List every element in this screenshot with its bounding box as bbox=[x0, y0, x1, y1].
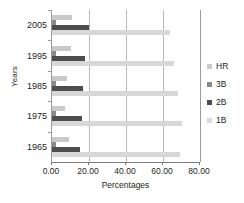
legend-label: 2B bbox=[216, 98, 226, 107]
bar bbox=[52, 152, 180, 157]
x-tick-mark bbox=[51, 162, 52, 165]
x-tick-mark bbox=[162, 162, 163, 165]
plot-area bbox=[51, 10, 201, 162]
y-axis-tick-labels: 20051995198519751965 bbox=[0, 10, 47, 162]
y-tick-label: 1975 bbox=[3, 111, 47, 121]
bar-group bbox=[52, 40, 200, 70]
y-tick-label: 2005 bbox=[3, 20, 47, 30]
x-tick-mark bbox=[88, 162, 89, 165]
legend: HR3B2B1B bbox=[207, 57, 244, 129]
y-tick-label: 1995 bbox=[3, 51, 47, 61]
x-tick-label: 40.00 bbox=[105, 166, 145, 176]
bar bbox=[52, 121, 182, 126]
x-tick-mark bbox=[199, 162, 200, 165]
bar-group bbox=[52, 71, 200, 101]
legend-swatch-icon bbox=[207, 118, 212, 123]
x-tick-label: 20.00 bbox=[68, 166, 108, 176]
bar bbox=[52, 91, 178, 96]
bar-group bbox=[52, 10, 200, 40]
y-tick-mark bbox=[48, 101, 51, 102]
y-tick-label: 1985 bbox=[3, 81, 47, 91]
y-tick-mark bbox=[48, 132, 51, 133]
legend-label: HR bbox=[216, 62, 228, 71]
bar-group bbox=[52, 132, 200, 162]
legend-item[interactable]: HR bbox=[207, 57, 244, 75]
y-tick-mark bbox=[48, 10, 51, 11]
legend-item[interactable]: 2B bbox=[207, 93, 244, 111]
bar bbox=[52, 61, 174, 66]
legend-swatch-icon bbox=[207, 82, 212, 87]
bar-group bbox=[52, 101, 200, 131]
legend-label: 3B bbox=[216, 80, 226, 89]
bar bbox=[52, 30, 170, 35]
bar-chart: Years 20051995198519751965 0.0020.0040.0… bbox=[0, 0, 244, 203]
x-tick-mark bbox=[125, 162, 126, 165]
legend-label: 1B bbox=[216, 116, 226, 125]
plot-inner bbox=[52, 10, 200, 162]
y-tick-label: 1965 bbox=[3, 142, 47, 152]
x-tick-label: 80.00 bbox=[179, 166, 219, 176]
x-tick-label: 0.00 bbox=[31, 166, 71, 176]
y-tick-mark bbox=[48, 71, 51, 72]
x-tick-label: 60.00 bbox=[142, 166, 182, 176]
y-tick-mark bbox=[48, 40, 51, 41]
legend-item[interactable]: 1B bbox=[207, 111, 244, 129]
x-axis-title: Percentages bbox=[51, 180, 200, 190]
legend-swatch-icon bbox=[207, 100, 212, 105]
legend-swatch-icon bbox=[207, 64, 212, 69]
legend-item[interactable]: 3B bbox=[207, 75, 244, 93]
